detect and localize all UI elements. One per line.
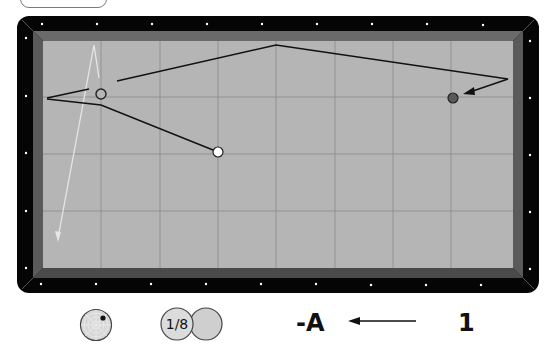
billiard-table — [0, 0, 556, 300]
table-felt — [43, 41, 513, 268]
thickness-label: 1/8 — [166, 316, 189, 332]
white-ball[interactable] — [213, 147, 223, 157]
left-arrow-icon — [348, 315, 418, 327]
system-label: -A — [296, 309, 325, 337]
cushion-right — [513, 31, 523, 278]
outlined-ball[interactable] — [96, 89, 106, 99]
count-label: 1 — [458, 309, 475, 337]
cushion-bottom — [33, 268, 523, 278]
ball-thickness-icon: 1/8 — [158, 305, 228, 343]
spin-point-icon — [100, 315, 105, 320]
cushion-top — [33, 31, 523, 41]
cue-tip-spin-icon — [79, 308, 113, 342]
cushion-left — [33, 31, 43, 278]
red-ball[interactable] — [448, 93, 458, 103]
